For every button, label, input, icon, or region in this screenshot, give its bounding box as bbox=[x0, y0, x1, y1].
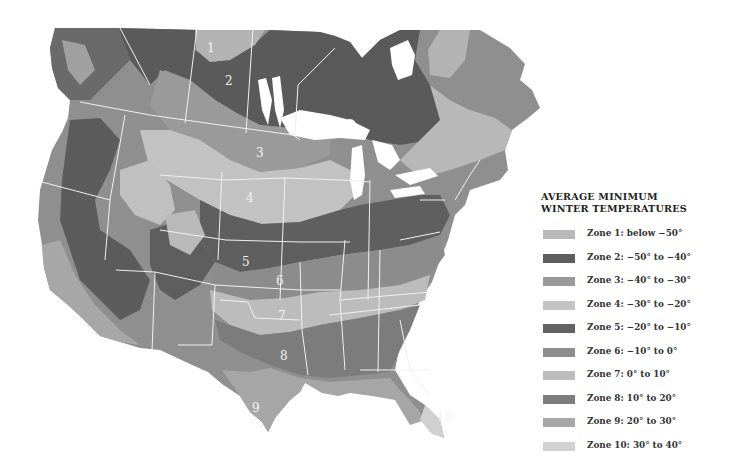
zone-9-label: Zone 9: 20° to 30° bbox=[587, 416, 676, 426]
zone-2-swatch bbox=[543, 254, 575, 263]
legend-item-zone-10: Zone 10: 30° to 40° bbox=[541, 441, 729, 465]
legend-items: Zone 1: below −50° Zone 2: −50° to −40° … bbox=[541, 229, 729, 464]
zone-5-swatch bbox=[543, 324, 575, 333]
legend-title-line2: WINTER TEMPERATURES bbox=[541, 203, 729, 215]
zone-1-swatch bbox=[543, 230, 575, 239]
zone-6-label: Zone 6: −10° to 0° bbox=[587, 346, 677, 356]
legend-item-zone-5: Zone 5: −20° to −10° bbox=[541, 323, 729, 347]
legend-item-zone-3: Zone 3: −40° to −30° bbox=[541, 276, 729, 300]
zone-3-swatch bbox=[543, 277, 575, 286]
zone-7-label: Zone 7: 0° to 10° bbox=[587, 369, 670, 379]
zone-label-6: 6 bbox=[276, 274, 284, 288]
legend-item-zone-4: Zone 4: −30° to −20° bbox=[541, 300, 729, 324]
zone-1-label: Zone 1: below −50° bbox=[587, 228, 682, 238]
legend-item-zone-1: Zone 1: below −50° bbox=[541, 229, 729, 253]
zone-9-swatch bbox=[543, 418, 575, 427]
legend-item-zone-2: Zone 2: −50° to −40° bbox=[541, 253, 729, 277]
legend-title-line1: AVERAGE MINIMUM bbox=[541, 191, 729, 203]
zone-label-1: 1 bbox=[207, 41, 215, 55]
zone-label-2: 2 bbox=[225, 74, 233, 88]
zone-8-swatch bbox=[543, 395, 575, 404]
zone-4-label: Zone 4: −30° to −20° bbox=[587, 299, 691, 309]
zone-8-label: Zone 8: 10° to 20° bbox=[587, 393, 676, 403]
zone-label-3: 3 bbox=[256, 146, 264, 160]
zone-label-8: 8 bbox=[280, 349, 288, 363]
zone-6-swatch bbox=[543, 348, 575, 357]
zone-10-label: Zone 10: 30° to 40° bbox=[587, 440, 682, 450]
zone-3-label: Zone 3: −40° to −30° bbox=[587, 275, 691, 285]
legend-item-zone-6: Zone 6: −10° to 0° bbox=[541, 347, 729, 371]
legend-item-zone-8: Zone 8: 10° to 20° bbox=[541, 394, 729, 418]
zone-label-9: 9 bbox=[252, 401, 260, 415]
map-legend: AVERAGE MINIMUM WINTER TEMPERATURES Zone… bbox=[541, 191, 729, 464]
zone-4-swatch bbox=[543, 301, 575, 310]
zone-7-swatch bbox=[543, 371, 575, 380]
zone-2-label: Zone 2: −50° to −40° bbox=[587, 252, 691, 262]
zone-label-10: 10 bbox=[437, 410, 452, 424]
zone-label-7: 7 bbox=[278, 309, 286, 323]
zone-5-label: Zone 5: −20° to −10° bbox=[587, 322, 691, 332]
zone-label-5: 5 bbox=[242, 255, 250, 269]
zone-10-swatch bbox=[543, 442, 575, 451]
legend-item-zone-7: Zone 7: 0° to 10° bbox=[541, 370, 729, 394]
legend-item-zone-9: Zone 9: 20° to 30° bbox=[541, 417, 729, 441]
zone-label-4: 4 bbox=[246, 191, 254, 205]
